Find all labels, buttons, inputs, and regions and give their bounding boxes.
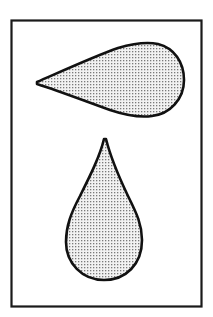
teardrop-diagram xyxy=(0,0,213,317)
